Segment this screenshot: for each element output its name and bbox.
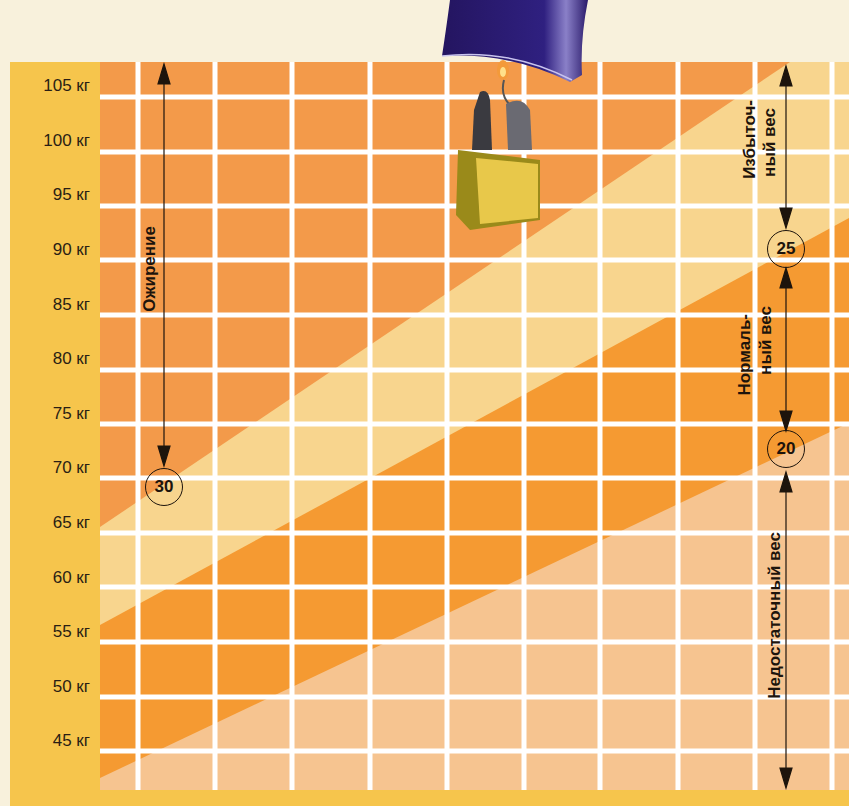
y-tick-45: 45 кг — [14, 731, 90, 751]
obesity-label: Ожирение — [140, 226, 160, 312]
y-tick-105: 105 кг — [14, 76, 90, 96]
overweight-label-line2: ный вес — [760, 108, 780, 177]
y-tick-85: 85 кг — [14, 295, 90, 315]
overweight-label-line1: Избыточ- — [740, 100, 760, 179]
y-tick-100: 100 кг — [14, 131, 90, 151]
bmi-20-marker: 20 — [767, 430, 805, 468]
y-tick-90: 90 кг — [14, 240, 90, 260]
bmi-30-marker: 30 — [145, 468, 183, 506]
y-tick-65: 65 кг — [14, 513, 90, 533]
normal-label-line2: ный вес — [756, 306, 776, 375]
y-tick-95: 95 кг — [14, 185, 90, 205]
normal-label-line1: Нормаль- — [735, 314, 755, 396]
bmi-25-marker: 25 — [767, 230, 805, 268]
y-tick-80: 80 кг — [14, 349, 90, 369]
balloon-envelope — [442, 0, 588, 82]
y-tick-60: 60 кг — [14, 568, 90, 588]
y-tick-50: 50 кг — [14, 677, 90, 697]
y-tick-75: 75 кг — [14, 404, 90, 424]
y-tick-55: 55 кг — [14, 622, 90, 642]
hot-air-balloon-illustration — [440, 0, 610, 240]
underweight-label: Недостаточный вес — [765, 532, 785, 699]
y-tick-70: 70 кг — [14, 458, 90, 478]
